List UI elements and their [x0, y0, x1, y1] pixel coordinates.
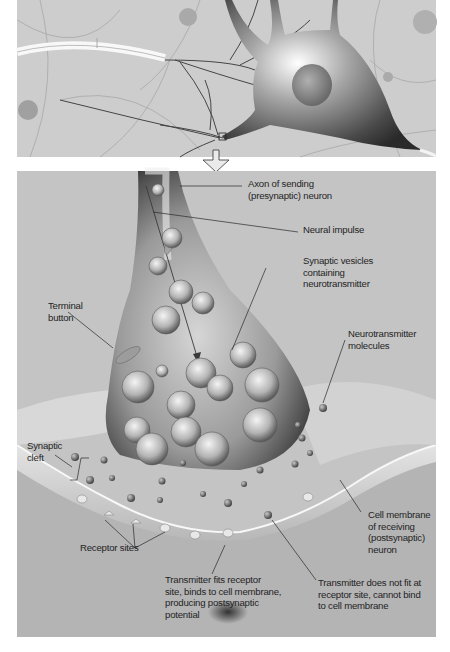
label-transmitter-does-not-fit: Transmitter does not fit at receptor sit…	[318, 577, 421, 612]
label-synaptic-cleft: Synaptic cleft	[27, 440, 62, 463]
label-cell-membrane-postsynaptic: Cell membrane of receiving (postsynaptic…	[368, 509, 430, 555]
label-axon-presynaptic: Axon of sending (presynaptic) neuron	[248, 178, 332, 201]
top-panel-neuron	[17, 0, 437, 157]
label-neurotransmitter-molecules: Neurotransmitter molecules	[348, 328, 416, 351]
synapse-diagram: Axon of sending (presynaptic) neuron Neu…	[0, 0, 450, 652]
label-transmitter-fits: Transmitter fits receptor site, binds to…	[165, 574, 281, 620]
label-terminal-button: Terminal button	[48, 300, 83, 323]
label-neural-impulse: Neural impulse	[303, 224, 364, 236]
label-receptor-sites: Receptor sites	[80, 542, 139, 554]
bottom-panel-synapse	[17, 171, 436, 637]
label-synaptic-vesicles: Synaptic vesicles containing neurotransm…	[303, 255, 373, 290]
